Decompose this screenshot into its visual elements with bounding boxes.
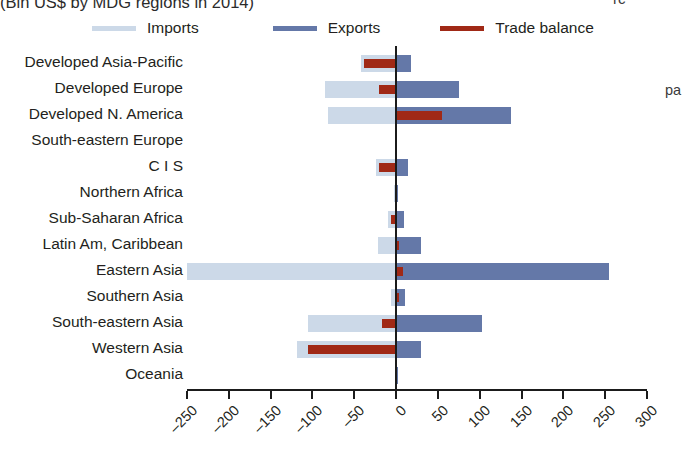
bar-balance [379, 163, 396, 172]
bar-balance [396, 267, 403, 276]
x-axis-tick [562, 391, 564, 399]
chart-legend: Imports Exports Trade balance [92, 17, 652, 39]
y-axis-label: Latin Am, Caribbean [0, 235, 183, 253]
trade-bar-chart: (Bln US$ by MDG regions in 2014) rc pa I… [0, 0, 697, 456]
x-axis-tick [521, 391, 523, 399]
legend-label-imports: Imports [147, 19, 199, 37]
bar-exports [396, 55, 411, 72]
bar-balance [382, 319, 396, 328]
bar-imports [378, 237, 396, 254]
legend-swatch-trade-balance-icon [440, 26, 484, 31]
bar-balance [379, 85, 396, 94]
y-axis-label: Eastern Asia [0, 261, 183, 279]
legend-item-exports: Exports [273, 19, 381, 37]
x-axis-tick [353, 391, 355, 399]
bar-exports [396, 237, 421, 254]
x-axis-tick [437, 391, 439, 399]
margin-text-top-right-label: rc [613, 0, 626, 6]
y-axis-label: Western Asia [0, 339, 183, 357]
bar-exports [396, 315, 482, 332]
y-axis-category-labels: Developed Asia-PacificDeveloped EuropeDe… [0, 50, 183, 388]
margin-text-side-label: pa [665, 82, 681, 98]
x-axis-tick [479, 391, 481, 399]
chart-title-text: (Bln US$ by MDG regions in 2014) [0, 0, 430, 13]
x-axis-tick [604, 391, 606, 399]
bar-imports [328, 107, 397, 124]
y-axis-label: C I S [0, 157, 183, 175]
legend-swatch-imports-icon [92, 26, 136, 31]
chart-title: (Bln US$ by MDG regions in 2014) [0, 0, 430, 13]
x-axis-tick [186, 391, 188, 399]
bar-balance [396, 111, 442, 120]
y-axis-label: Northern Africa [0, 183, 183, 201]
zero-reference-line [395, 46, 397, 390]
x-axis-line [187, 389, 647, 391]
legend-label-trade-balance: Trade balance [495, 19, 594, 37]
y-axis-label: Developed N. America [0, 105, 183, 123]
x-axis-tick [228, 391, 230, 399]
legend-swatch-exports-icon [273, 26, 317, 31]
y-axis-label: Developed Asia-Pacific [0, 53, 183, 71]
legend-item-trade-balance: Trade balance [440, 19, 594, 37]
legend-label-exports: Exports [328, 19, 381, 37]
y-axis-label: Oceania [0, 365, 183, 383]
x-axis-tick [395, 391, 397, 399]
x-axis-tick [270, 391, 272, 399]
margin-text-top-right: rc [613, 0, 693, 6]
bar-exports [396, 341, 421, 358]
bar-exports [396, 159, 408, 176]
bar-exports [396, 263, 609, 280]
y-axis-label: Developed Europe [0, 79, 183, 97]
y-axis-label: South-eastern Asia [0, 313, 183, 331]
bar-balance [364, 59, 396, 68]
plot-area [187, 50, 647, 388]
margin-text-side: pa [665, 80, 695, 100]
bar-imports [187, 263, 396, 280]
y-axis-label: Southern Asia [0, 287, 183, 305]
x-axis-tick [311, 391, 313, 399]
bar-balance [308, 345, 396, 354]
x-axis-tick [646, 391, 648, 399]
bar-exports [396, 211, 404, 228]
legend-item-imports: Imports [92, 19, 199, 37]
y-axis-label: Sub-Saharan Africa [0, 209, 183, 227]
y-axis-label: South-eastern Europe [0, 131, 183, 149]
bar-exports [396, 81, 459, 98]
